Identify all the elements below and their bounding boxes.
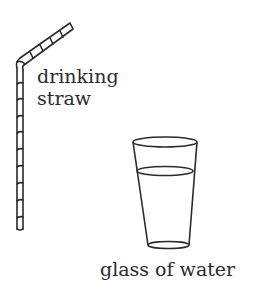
- drinking-straw-icon: [16, 23, 73, 230]
- diagram-canvas: drinking straw glass of water: [0, 0, 255, 305]
- glass-of-water-icon: [133, 137, 197, 249]
- straw-label-line2: straw: [37, 87, 119, 109]
- glass-label: glass of water: [100, 258, 235, 280]
- straw-label-line1: drinking: [37, 65, 119, 87]
- straw-label: drinking straw: [37, 65, 119, 109]
